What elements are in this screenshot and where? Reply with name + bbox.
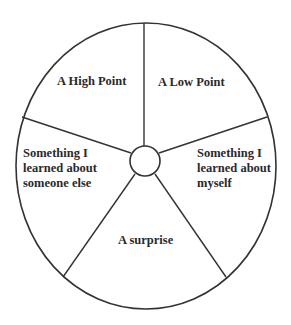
segment-label-learned-myself: Something I learned about myself	[197, 146, 271, 191]
segment-label-high-point: A High Point	[57, 74, 126, 89]
segment-label-learned-someone-else: Something I learned about someone else	[23, 146, 97, 191]
center-circle	[130, 146, 160, 176]
segment-label-low-point: A Low Point	[158, 75, 225, 90]
segment-label-surprise: A surprise	[118, 233, 173, 248]
